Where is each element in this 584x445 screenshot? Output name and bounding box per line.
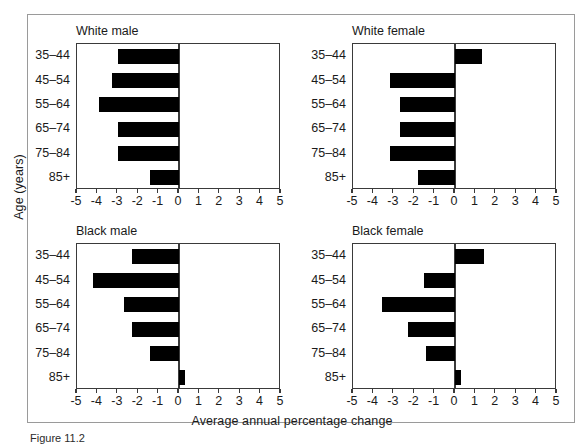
x-tick-mark bbox=[433, 389, 434, 393]
panel-white-male: White male35–4445–5455–6465–7475–8485+-5… bbox=[76, 24, 280, 210]
y-tick-label: 35–44 bbox=[16, 248, 70, 262]
bar bbox=[390, 73, 455, 88]
zero-axis-line bbox=[178, 244, 179, 388]
x-tick-label: 3 bbox=[504, 194, 526, 208]
zero-axis-line bbox=[454, 244, 455, 388]
x-tick-label: 5 bbox=[269, 194, 291, 208]
y-tick-label: 35–44 bbox=[292, 48, 346, 62]
bar bbox=[93, 273, 179, 288]
x-tick-mark bbox=[392, 189, 393, 193]
y-tick-label: 75–84 bbox=[16, 346, 70, 360]
bar bbox=[179, 370, 185, 385]
bar bbox=[455, 370, 461, 385]
y-tick-label: 85+ bbox=[16, 370, 70, 384]
x-tick-label: 2 bbox=[208, 194, 230, 208]
x-tick-label: -4 bbox=[361, 394, 383, 408]
x-tick-label: -3 bbox=[106, 194, 128, 208]
y-tick-label: 45–54 bbox=[292, 73, 346, 87]
x-tick-mark bbox=[259, 389, 260, 393]
x-tick-label: -1 bbox=[423, 394, 445, 408]
bar bbox=[400, 97, 455, 112]
x-tick-mark bbox=[157, 189, 158, 193]
x-tick-mark bbox=[218, 389, 219, 393]
x-tick-mark bbox=[494, 189, 495, 193]
plot-area bbox=[352, 43, 556, 189]
x-tick-mark bbox=[535, 389, 536, 393]
x-tick-mark bbox=[494, 389, 495, 393]
x-tick-label: -5 bbox=[65, 394, 87, 408]
x-tick-mark bbox=[474, 389, 475, 393]
x-tick-label: -2 bbox=[402, 194, 424, 208]
x-tick-mark bbox=[535, 189, 536, 193]
x-tick-mark bbox=[372, 389, 373, 393]
x-tick-label: 0 bbox=[167, 394, 189, 408]
x-tick-mark bbox=[351, 389, 352, 393]
bar bbox=[124, 297, 179, 312]
x-tick-mark bbox=[116, 189, 117, 193]
x-tick-mark bbox=[372, 189, 373, 193]
panel-white-female: White female35–4445–5455–6465–7475–8485+… bbox=[352, 24, 556, 210]
bar bbox=[390, 146, 455, 161]
x-tick-mark bbox=[137, 389, 138, 393]
bar bbox=[112, 73, 179, 88]
y-tick-label: 35–44 bbox=[16, 48, 70, 62]
x-tick-mark bbox=[75, 389, 76, 393]
y-tick-label: 65–74 bbox=[16, 121, 70, 135]
x-tick-label: -2 bbox=[126, 394, 148, 408]
x-tick-label: 5 bbox=[545, 194, 567, 208]
panel-title: Black female bbox=[352, 224, 424, 238]
x-tick-label: 1 bbox=[463, 194, 485, 208]
x-tick-label: -4 bbox=[85, 194, 107, 208]
bar bbox=[150, 170, 179, 185]
y-tick-label: 85+ bbox=[292, 370, 346, 384]
x-tick-mark bbox=[279, 389, 280, 393]
bar bbox=[118, 122, 179, 137]
x-tick-mark bbox=[75, 189, 76, 193]
bar bbox=[99, 97, 179, 112]
x-tick-label: -5 bbox=[341, 394, 363, 408]
x-tick-mark bbox=[198, 189, 199, 193]
x-tick-label: -3 bbox=[106, 394, 128, 408]
figure-container: Age (years) Average annual percentage ch… bbox=[0, 0, 584, 445]
x-tick-mark bbox=[279, 189, 280, 193]
x-tick-mark bbox=[218, 189, 219, 193]
y-tick-label: 85+ bbox=[16, 170, 70, 184]
bar bbox=[150, 346, 179, 361]
y-tick-label: 65–74 bbox=[292, 321, 346, 335]
x-tick-mark bbox=[392, 389, 393, 393]
y-tick-label: 65–74 bbox=[16, 321, 70, 335]
plot-area bbox=[352, 243, 556, 389]
zero-axis-line bbox=[454, 44, 455, 188]
x-tick-mark bbox=[116, 389, 117, 393]
panel-black-female: Black female35–4445–5455–6465–7475–8485+… bbox=[352, 224, 556, 410]
x-tick-label: 3 bbox=[504, 394, 526, 408]
x-tick-label: -4 bbox=[361, 194, 383, 208]
plot-area bbox=[76, 43, 280, 189]
bar bbox=[400, 122, 455, 137]
x-tick-label: 5 bbox=[545, 394, 567, 408]
x-tick-label: -3 bbox=[382, 394, 404, 408]
x-tick-label: 4 bbox=[525, 194, 547, 208]
x-tick-mark bbox=[259, 189, 260, 193]
zero-axis-line bbox=[178, 44, 179, 188]
panel-title: Black male bbox=[76, 224, 137, 238]
x-tick-mark bbox=[453, 389, 454, 393]
x-tick-label: -2 bbox=[402, 394, 424, 408]
x-tick-mark bbox=[413, 389, 414, 393]
x-tick-label: 0 bbox=[167, 194, 189, 208]
x-tick-label: 2 bbox=[208, 394, 230, 408]
figure-caption: Figure 11.2 bbox=[30, 432, 85, 444]
bar bbox=[132, 249, 179, 264]
x-tick-mark bbox=[157, 389, 158, 393]
x-tick-label: -4 bbox=[85, 394, 107, 408]
x-tick-mark bbox=[453, 189, 454, 193]
x-tick-label: 1 bbox=[187, 394, 209, 408]
x-tick-mark bbox=[555, 389, 556, 393]
bar bbox=[418, 170, 455, 185]
x-tick-mark bbox=[474, 189, 475, 193]
bar bbox=[426, 346, 455, 361]
x-tick-label: -3 bbox=[382, 194, 404, 208]
x-tick-label: 1 bbox=[187, 194, 209, 208]
bar bbox=[382, 297, 455, 312]
y-tick-label: 55–64 bbox=[16, 97, 70, 111]
